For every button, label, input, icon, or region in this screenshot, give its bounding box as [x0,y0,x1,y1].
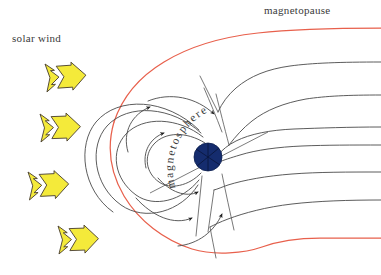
solar-wind-arrow-4 [58,225,99,254]
magnetotail-field-lines [210,62,381,227]
tail-field-line-1 [218,62,381,112]
magnetopause-upper-curve [114,28,381,122]
cusp-line-north-2 [216,94,229,145]
earth-group [194,143,222,171]
closed-loop-middle [116,121,203,201]
solar-wind-label: solar wind [12,32,61,44]
magnetosphere-diagram-canvas: solar wind magnetopause magnetosphere [0,0,381,275]
cusp-line-south-4 [222,174,234,230]
tail-field-line-4 [219,145,381,162]
tail-field-line-2 [229,95,381,145]
tail-field-line-6 [210,200,381,227]
magnetopause-label: magnetopause [264,4,331,16]
magnetopause-boundary [110,28,381,253]
tail-field-line-3 [218,127,381,155]
solar-wind-arrow-1 [45,61,87,92]
solar-wind-arrows [28,61,99,254]
tail-field-line-5 [214,172,381,190]
cusp-line-south-3 [196,176,202,236]
solar-wind-arrow-2 [40,113,81,142]
magnetosphere-svg: solar wind magnetopause magnetosphere [0,0,381,275]
convection-arc-bottom-outer [178,214,222,246]
convection-arc-upper-left [126,107,150,152]
solar-wind-arrow-3 [28,170,69,200]
